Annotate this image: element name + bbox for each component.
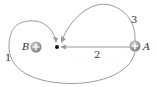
charge-b xyxy=(31,42,42,53)
charge-a xyxy=(130,41,141,52)
label-path-2: 2 xyxy=(94,50,100,60)
arrowhead-path-2 xyxy=(60,45,66,50)
label-charge-b: B xyxy=(22,42,29,52)
field-point xyxy=(55,45,59,49)
path-3 xyxy=(62,4,135,41)
label-path-1: 1 xyxy=(5,53,11,63)
path-1 xyxy=(9,21,135,84)
label-charge-a: A xyxy=(143,42,150,52)
label-path-3: 3 xyxy=(131,15,137,25)
arrowhead-path-1 xyxy=(53,37,58,43)
